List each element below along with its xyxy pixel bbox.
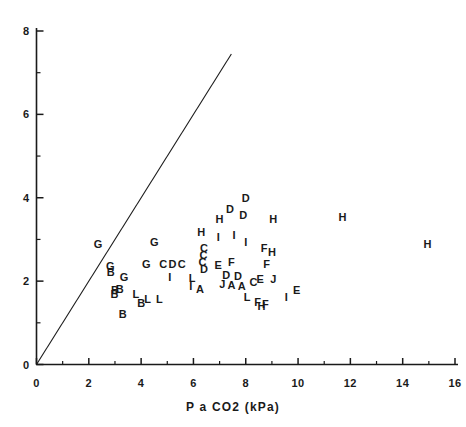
y-tick-label: 6 (23, 109, 30, 120)
data-point-marker: J (270, 274, 276, 285)
data-point-marker: G (150, 237, 159, 248)
data-point-marker: E (215, 260, 222, 271)
data-point-marker: D (239, 210, 247, 221)
data-point-marker: D (234, 271, 242, 282)
data-point-marker: G (120, 271, 129, 282)
data-point-marker: D (169, 259, 177, 270)
data-point-marker: L (144, 293, 151, 304)
data-point-marker: I (285, 291, 288, 302)
data-point-marker: C (250, 276, 258, 287)
data-point-marker: H (269, 213, 277, 224)
data-point-marker: L (244, 291, 251, 302)
scatter-plot-figure: 0246810121416 02468 GGGBGGCDCCCCDEFDHIII… (0, 0, 466, 427)
x-tick-label: 12 (344, 378, 357, 389)
data-point-marker: L (156, 293, 163, 304)
data-point-marker: B (107, 267, 115, 278)
data-point-marker: I (244, 236, 247, 247)
y-tick-label: 0 (23, 359, 30, 370)
data-point-marker: B (137, 297, 145, 308)
identity-line (37, 54, 232, 365)
data-point-marker: D (242, 192, 250, 203)
x-tick-label: 2 (86, 378, 93, 389)
identity-reference-line (37, 54, 232, 365)
data-point-marker: F (263, 258, 270, 269)
data-point-marker: A (196, 283, 204, 294)
data-point-marker: H (197, 226, 205, 237)
data-point-marker: D (200, 263, 208, 274)
y-axis-ticks (37, 31, 44, 365)
data-point-marker: F (261, 242, 268, 253)
data-point-marker: F (228, 257, 235, 268)
data-point-marker: B (119, 308, 127, 319)
y-tick-label: 8 (23, 26, 30, 37)
data-point-marker: E (293, 285, 300, 296)
x-tick-label: 8 (242, 378, 249, 389)
x-tick-label: 14 (396, 378, 409, 389)
data-point-marker: H (268, 246, 276, 257)
data-point-marker: C (178, 259, 186, 270)
x-tick-label: 16 (448, 378, 461, 389)
data-point-marker: H (216, 213, 224, 224)
data-point-marker: I (168, 271, 171, 282)
data-point-marker: H (339, 211, 347, 222)
data-point-marker: C (159, 259, 167, 270)
data-point-marker: I (189, 281, 192, 292)
x-tick-label: 6 (190, 378, 197, 389)
x-axis-title: P a CO2 (kPa) (0, 400, 466, 414)
y-tick-label: 4 (23, 192, 30, 203)
x-tick-label: 4 (138, 378, 145, 389)
data-point-marker: G (94, 239, 103, 250)
data-point-marker: H (424, 238, 432, 249)
x-tick-label: 0 (33, 378, 40, 389)
data-point-marker: I (232, 230, 235, 241)
data-point-marker: D (226, 204, 234, 215)
x-axis-ticks (37, 358, 456, 365)
data-point-marker: B (110, 289, 118, 300)
data-point-marker: G (142, 259, 151, 270)
data-point-marker: H (257, 301, 265, 312)
data-point-marker: I (217, 232, 220, 243)
data-point-marker: J (219, 279, 225, 290)
x-tick-label: 10 (291, 378, 304, 389)
y-tick-label: 2 (23, 276, 30, 287)
